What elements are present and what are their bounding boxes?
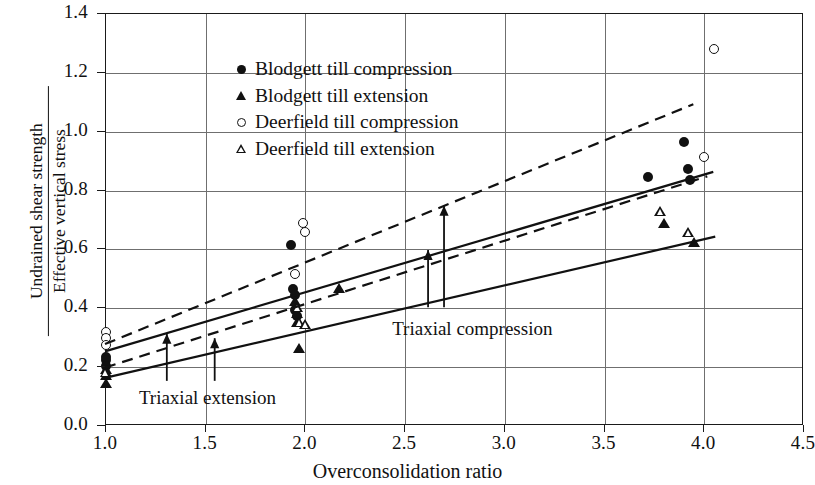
x-tick [205,425,206,432]
data-point [683,164,693,174]
legend: Blodgett till compressionBlodgett till e… [230,56,459,162]
y-tick [97,131,105,132]
filled-triangle-icon [230,91,252,100]
x-axis-title: Overconsolidation ratio [0,460,815,483]
x-tick-label: 1.0 [75,432,135,454]
data-point [682,227,694,237]
y-tick [97,72,105,73]
y-tick-label: 1.2 [26,60,88,82]
plot-area: Blodgett till compressionBlodgett till e… [105,13,803,425]
legend-item: Deerfield till compression [230,109,459,136]
data-point [286,240,296,250]
data-point [685,175,695,185]
gridline-horizontal [106,367,802,368]
x-tick-label: 2.0 [274,432,334,454]
y-tick [97,425,105,426]
gridline-horizontal [106,308,802,309]
x-tick-label: 4.0 [673,432,733,454]
x-tick [304,425,305,432]
gridline-vertical [206,14,207,424]
y-tick [97,307,105,308]
legend-label: Deerfield till extension [252,136,435,163]
data-point [688,237,700,247]
x-tick-label: 3.5 [574,432,634,454]
legend-item: Blodgett till extension [230,83,459,110]
x-tick [504,425,505,432]
y-tick-label: 0.0 [26,413,88,435]
legend-label: Blodgett till extension [252,83,428,110]
x-tick [703,425,704,432]
y-tick-label: 0.2 [26,354,88,376]
marker-glyph [237,65,246,74]
y-tick-label: 1.4 [26,1,88,23]
y-tick [97,13,105,14]
y-tick-label: 0.8 [26,178,88,200]
y-tick-label: 0.6 [26,236,88,258]
data-point [679,137,689,147]
y-tick [97,190,105,191]
annotation-label: Triaxial extension [139,387,276,409]
y-tick-label: 1.0 [26,119,88,141]
data-point [654,206,666,216]
annotation-label: Triaxial compression [392,318,552,340]
data-point [293,343,305,353]
gridline-horizontal [106,191,802,192]
x-tick [404,425,405,432]
y-tick [97,248,105,249]
filled-circle-icon [230,65,252,74]
x-tick-label: 1.5 [175,432,235,454]
data-point [101,340,111,350]
gridline-vertical [704,14,705,424]
x-tick [803,425,804,432]
data-point [658,218,670,228]
y-tick [97,366,105,367]
open-circle-icon [230,118,252,127]
marker-glyph [236,144,246,153]
x-tick-label: 3.0 [474,432,534,454]
data-point [333,283,345,293]
data-point [299,319,311,329]
legend-label: Blodgett till compression [252,56,452,83]
data-point [100,367,112,377]
y-tick-label: 0.4 [26,295,88,317]
data-point [300,227,310,237]
x-tick [604,425,605,432]
data-point [290,269,300,279]
data-point [100,378,112,388]
legend-item: Deerfield till extension [230,136,459,163]
x-tick-label: 2.5 [374,432,434,454]
data-point [709,44,719,54]
legend-item: Blodgett till compression [230,56,459,83]
data-point [643,172,653,182]
marker-glyph [236,91,246,100]
x-tick [105,425,106,432]
legend-label: Deerfield till compression [252,109,459,136]
marker-glyph [237,118,246,127]
data-point [291,302,303,312]
x-tick-label: 4.5 [773,432,815,454]
chart-figure: Undrained shear strength Effective verti… [0,0,815,485]
gridline-vertical [605,14,606,424]
open-triangle-icon [230,144,252,153]
data-point [699,152,709,162]
gridline-horizontal [106,249,802,250]
gridline-vertical [505,14,506,424]
